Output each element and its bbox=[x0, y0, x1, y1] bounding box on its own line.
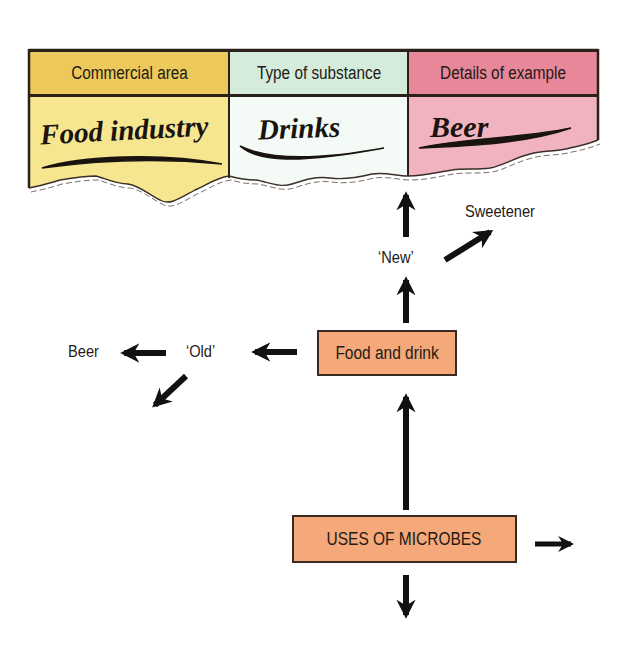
arrow-down-left-icon bbox=[155, 376, 186, 405]
node-label: Food and drink bbox=[335, 343, 438, 364]
label-old: ‘Old’ bbox=[186, 342, 215, 362]
node-uses-of-microbes: USES OF MICROBES bbox=[292, 515, 517, 563]
node-food-and-drink: Food and drink bbox=[317, 330, 457, 376]
arrow-to-sweetener-icon bbox=[445, 232, 490, 260]
label-sweetener: Sweetener bbox=[465, 202, 535, 222]
node-label: USES OF MICROBES bbox=[327, 529, 482, 550]
label-new: ‘New’ bbox=[378, 248, 414, 268]
label-beer: Beer bbox=[68, 342, 99, 362]
